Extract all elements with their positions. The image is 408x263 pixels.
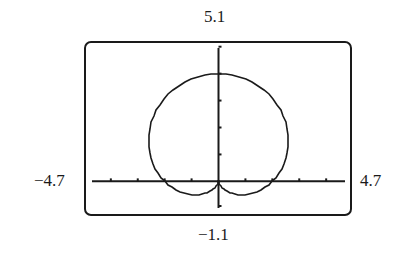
polar-plot [0,0,408,263]
